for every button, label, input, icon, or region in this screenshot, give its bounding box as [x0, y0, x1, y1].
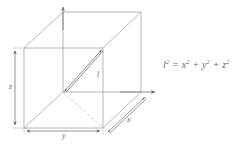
figure-root: z y x l l2 = x2 + y2 + z2 [0, 0, 240, 148]
cube-front-face [24, 48, 103, 128]
axis-label-y: y [62, 132, 66, 140]
equation-equals-sign: = [172, 59, 180, 70]
depth-edge-bottom-left [24, 92, 63, 128]
depth-edge-top-left [24, 12, 63, 48]
equation-term2-exponent: 2 [206, 58, 209, 65]
equation-term1-exponent: 2 [186, 58, 189, 65]
dashed-base-diagonal [63, 92, 103, 128]
axis-label-x: x [127, 116, 131, 124]
equation-plus-sign-1: + [192, 59, 200, 70]
hidden-construction-lines [63, 92, 103, 128]
equation-pythagorean-3d: l2 = x2 + y2 + z2 [163, 60, 230, 70]
axis-label-z: z [9, 83, 12, 91]
equation-plus-sign-2: + [212, 59, 220, 70]
dimension-line-z [13, 48, 28, 128]
cube-depth-edges [24, 12, 141, 128]
equation-lhs-exponent: 2 [166, 58, 169, 65]
diagonal-label-l: l [97, 71, 99, 79]
depth-edge-top-right [103, 12, 141, 48]
cube-diagram-svg [0, 0, 240, 148]
equation-term3-exponent: 2 [226, 58, 229, 65]
depth-edge-bottom-right [103, 92, 141, 128]
